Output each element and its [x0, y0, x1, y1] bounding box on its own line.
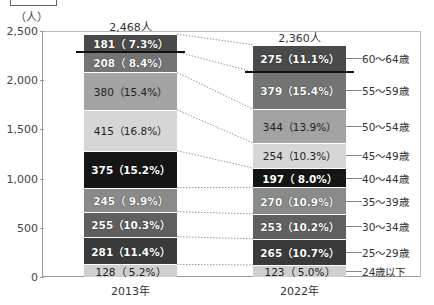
bar-segment: 123（ 5.0%） [253, 265, 346, 277]
y-tick-label: 500 [0, 221, 38, 234]
bar-segment: 379（15.4%） [253, 72, 346, 109]
legend-label: 30～34歳 [362, 219, 409, 234]
legend-leader-line [346, 252, 362, 253]
bar-segment: 128（ 5.2%） [84, 264, 177, 277]
bar-segment: 265（10.7%） [253, 239, 346, 265]
bar-segment: 254（10.3%） [253, 143, 346, 168]
legend-leader-line [346, 226, 362, 227]
bar-segment: 253（10.2%） [253, 214, 346, 239]
y-tick-mark [40, 277, 44, 278]
bar-segment: 245（ 9.9%） [84, 188, 177, 212]
bar-segment: 181（ 7.3%） [84, 34, 177, 52]
bar-segment: 344（13.9%） [253, 109, 346, 143]
legend-leader-line [346, 155, 362, 156]
legend-leader-line [346, 126, 362, 127]
bar-segment: 208（ 8.4%） [84, 52, 177, 72]
stacked-bar-2022年: 123（ 5.0%）265（10.7%）253（10.2%）270（10.9%）… [253, 0, 346, 305]
legend-label: 60～64歳 [362, 51, 409, 66]
bar-total-label: 2,468人 [84, 18, 177, 34]
y-tick-label: 0 [0, 271, 38, 284]
legend-label: 40～44歳 [362, 170, 409, 185]
stacked-bar-2013年: 128（ 5.2%）281（11.4%）255（10.3%）245（ 9.9%）… [84, 0, 177, 305]
legend-leader-line [346, 271, 362, 272]
y-tick-label: 2,500 [0, 25, 38, 38]
legend-label: 45～49歳 [362, 148, 409, 163]
y-tick-label: 2,000 [0, 74, 38, 87]
bar-segment: 270（10.9%） [253, 187, 346, 214]
y-tick-mark [40, 31, 44, 32]
y-tick-mark [40, 80, 44, 81]
y-tick-mark [40, 179, 44, 180]
legend-label: 24歳以下 [362, 263, 405, 278]
legend-label: 50～54歳 [362, 119, 409, 134]
bar-segment: 380（15.4%） [84, 72, 177, 109]
bar-segment: 197（ 8.0%） [253, 168, 346, 187]
y-tick-mark [40, 129, 44, 130]
bar-segment: 281（11.4%） [84, 237, 177, 265]
bar-segment: 375（15.2%） [84, 151, 177, 188]
bar-segment: 275（11.1%） [253, 45, 346, 72]
legend-leader-line [346, 90, 362, 91]
bar-segment: 255（10.3%） [84, 212, 177, 237]
legend-label: 35～39歳 [362, 193, 409, 208]
legend-leader-line [346, 58, 362, 59]
legend-label: 25～29歳 [362, 244, 409, 259]
legend-leader-line [346, 178, 362, 179]
boundary-marker-line [76, 51, 185, 53]
bar-total-label: 2,360人 [253, 29, 346, 45]
legend-label: 55～59歳 [362, 83, 409, 98]
y-tick-mark [40, 228, 44, 229]
legend-leader-line [346, 201, 362, 202]
x-category-label: 2013年 [84, 282, 177, 298]
y-tick-label: 1,000 [0, 172, 38, 185]
bar-segment: 415（16.8%） [84, 110, 177, 151]
y-tick-label: 1,500 [0, 123, 38, 136]
boundary-marker-line [245, 71, 354, 73]
x-category-label: 2022年 [253, 282, 346, 298]
